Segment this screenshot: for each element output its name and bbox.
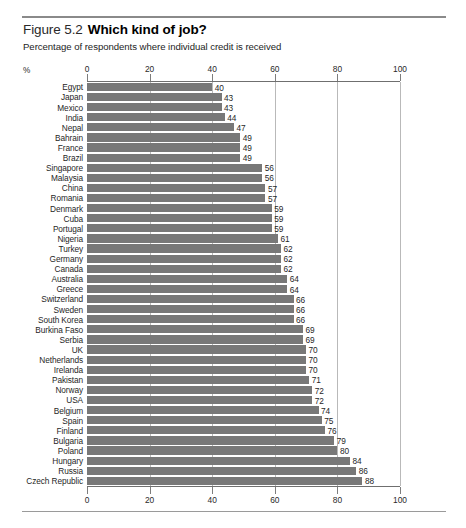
bar-category-label: Russia <box>58 466 83 476</box>
bar-category-label: Hungary <box>52 456 83 466</box>
bar-category-label: Australia <box>52 274 83 284</box>
bar-value-label: 49 <box>243 133 252 143</box>
bar-value-label: 66 <box>296 295 305 305</box>
bar-row: Bulgaria79 <box>0 436 466 446</box>
bar <box>87 446 337 454</box>
bar <box>87 275 287 283</box>
bar-value-label: 76 <box>327 426 336 436</box>
axis-tick-label: 20 <box>145 64 154 74</box>
bar-category-label: Portugal <box>53 224 83 234</box>
bar <box>87 406 319 414</box>
bar-value-label: 43 <box>224 103 233 113</box>
bar-value-label: 64 <box>290 274 299 284</box>
bar <box>87 396 312 404</box>
bar <box>87 467 356 475</box>
bar-value-label: 61 <box>280 234 289 244</box>
bar-category-label: Finland <box>56 426 83 436</box>
bar-value-label: 72 <box>315 386 324 396</box>
bar-row: Norway72 <box>0 385 466 395</box>
bar-category-label: Burkina Faso <box>35 325 83 335</box>
bar <box>87 214 272 222</box>
bar <box>87 143 240 151</box>
bar-category-label: Belgium <box>54 406 83 416</box>
bar-row: Spain75 <box>0 415 466 425</box>
bar-row: Romania57 <box>0 193 466 203</box>
bar-category-label: Norway <box>55 385 83 395</box>
bar <box>87 224 272 232</box>
bar-row: Netherlands70 <box>0 355 466 365</box>
axis-tick-mark <box>212 74 213 81</box>
footer-rule <box>22 511 446 512</box>
axis-tick-label: 100 <box>393 64 407 74</box>
bar-value-label: 80 <box>340 446 349 456</box>
bar-value-label: 70 <box>309 365 318 375</box>
bar-value-label: 56 <box>265 173 274 183</box>
bar-category-label: Nepal <box>62 123 83 133</box>
bar <box>87 416 322 424</box>
bar-row: Serbia69 <box>0 335 466 345</box>
bar-category-label: Bahrain <box>55 133 83 143</box>
bar-row: USA72 <box>0 395 466 405</box>
bar-category-label: Nigeria <box>57 234 83 244</box>
bar <box>87 366 306 374</box>
bar-value-label: 62 <box>284 254 293 264</box>
bar-category-label: Denmark <box>50 204 83 214</box>
bar-value-label: 70 <box>309 355 318 365</box>
bar-chart-plot: 002020404060608080100100 Egypt40Japan43M… <box>0 0 466 528</box>
bar-value-label: 62 <box>284 244 293 254</box>
bar-row: Canada62 <box>0 264 466 274</box>
bar <box>87 477 362 485</box>
bar <box>87 103 222 111</box>
bar <box>87 265 281 273</box>
bar-row: Nigeria61 <box>0 234 466 244</box>
bar-category-label: Brazil <box>63 153 83 163</box>
bar-value-label: 40 <box>215 83 224 93</box>
bar-category-label: Japan <box>61 92 83 102</box>
bar-row: Turkey62 <box>0 244 466 254</box>
bar <box>87 345 306 353</box>
bar <box>87 194 265 202</box>
bar-category-label: Germany <box>50 254 83 264</box>
bar-category-label: Romania <box>50 193 83 203</box>
bar-category-label: Canada <box>55 264 83 274</box>
bar <box>87 255 281 263</box>
bar-value-label: 57 <box>268 184 277 194</box>
axis-tick-mark <box>337 487 338 494</box>
bar-category-label: Netherlands <box>39 355 83 365</box>
bar-value-label: 44 <box>227 113 236 123</box>
bar-row: China57 <box>0 183 466 193</box>
bar-category-label: Poland <box>58 446 83 456</box>
bar-row: Germany62 <box>0 254 466 264</box>
bar-value-label: 59 <box>274 204 283 214</box>
bar-category-label: South Korea <box>38 315 83 325</box>
bar-category-label: Sweden <box>54 305 83 315</box>
bar-category-label: Cuba <box>64 214 83 224</box>
bar-value-label: 57 <box>268 194 277 204</box>
bar <box>87 356 306 364</box>
bar-value-label: 66 <box>296 315 305 325</box>
bar <box>87 457 350 465</box>
bar-category-label: Egypt <box>62 82 83 92</box>
axis-tick-label: 60 <box>270 64 279 74</box>
axis-tick-mark <box>337 74 338 81</box>
axis-tick-label: 40 <box>208 495 217 505</box>
bar-value-label: 56 <box>265 163 274 173</box>
bottom-axis-line <box>87 486 400 487</box>
bar <box>87 436 334 444</box>
bar-value-label: 75 <box>324 416 333 426</box>
axis-tick-label: 80 <box>333 495 342 505</box>
bar <box>87 315 294 323</box>
bar-row: Malaysia56 <box>0 173 466 183</box>
bar <box>87 83 212 91</box>
bar-row: Singapore56 <box>0 163 466 173</box>
bar-value-label: 62 <box>284 264 293 274</box>
bar-value-label: 72 <box>315 396 324 406</box>
bar <box>87 133 240 141</box>
bar-category-label: USA <box>66 395 83 405</box>
bar-value-label: 88 <box>365 476 374 486</box>
bar <box>87 184 265 192</box>
bar-value-label: 59 <box>274 224 283 234</box>
bar-row: Japan43 <box>0 92 466 102</box>
axis-tick-mark <box>87 487 88 494</box>
bar <box>87 376 309 384</box>
